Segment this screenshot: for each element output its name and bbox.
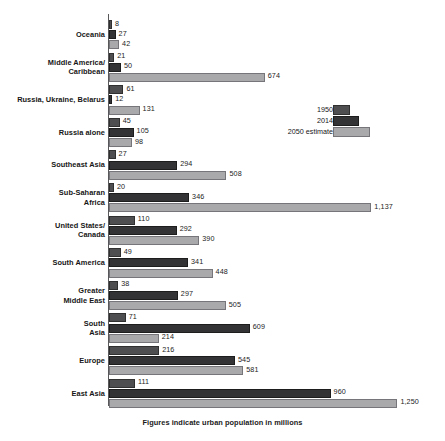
bar-value-label: 71 — [129, 312, 137, 322]
bar-value-label: 294 — [180, 159, 192, 169]
bar-1950 — [109, 118, 119, 127]
legend-label-1950: 1950 — [317, 104, 333, 115]
bar-value-label: 8 — [115, 19, 119, 29]
bar-value-label: 448 — [216, 267, 228, 277]
category-label-line: Southeast Asia — [3, 160, 105, 169]
bar-value-label: 21 — [117, 51, 125, 61]
bar-value-label: 297 — [181, 289, 193, 299]
bar-value-label: 27 — [119, 149, 127, 159]
bar-1950 — [109, 216, 134, 225]
category-label: Russia alone — [3, 128, 105, 137]
plot-area: 8274221506746112131451059827294508203461… — [108, 14, 438, 406]
bar-2014 — [109, 226, 176, 235]
bar-value-label: 390 — [202, 234, 214, 244]
bar-1950 — [109, 346, 159, 355]
bar-2050-estimate — [109, 236, 199, 245]
bar-2014 — [109, 356, 235, 365]
chart-footnote: Figures indicate urban population in mil… — [0, 418, 445, 427]
bar-value-label: 545 — [238, 355, 250, 365]
bar-2014 — [109, 291, 177, 300]
chart-legend: 1950 2014 2050 estimate — [290, 104, 395, 146]
category-label: SouthAsia — [3, 319, 105, 338]
category-label: Europe — [3, 356, 105, 365]
bar-value-label: 609 — [253, 322, 265, 332]
bar-value-label: 1,137 — [374, 202, 393, 212]
category-label-line: South America — [3, 258, 105, 267]
bar-1950 — [109, 379, 135, 388]
category-label: Russia, Ukraine, Belarus — [3, 95, 105, 104]
bar-value-label: 50 — [124, 61, 132, 71]
legend-label-2014: 2014 — [317, 115, 333, 126]
category-label-line: Canada — [3, 230, 105, 239]
bar-value-label: 61 — [126, 84, 134, 94]
category-label: Oceania — [3, 30, 105, 39]
bar-2050-estimate — [109, 73, 264, 82]
bar-2050-estimate — [109, 301, 225, 310]
category-label-line: Middle America/ — [3, 58, 105, 67]
bar-value-label: 341 — [191, 257, 203, 267]
bar-2014 — [109, 193, 189, 202]
legend-item-2050: 2050 estimate — [290, 126, 395, 137]
category-label-line: East Asia — [3, 389, 105, 398]
bar-value-label: 214 — [162, 332, 174, 342]
bar-2050-estimate — [109, 399, 397, 408]
category-label-line: Africa — [3, 198, 105, 207]
bar-2050-estimate — [109, 366, 243, 375]
category-label-line: United States/ — [3, 221, 105, 230]
bar-value-label: 131 — [143, 104, 155, 114]
legend-swatch-2050 — [333, 127, 370, 137]
bar-1950 — [109, 85, 123, 94]
bar-value-label: 674 — [268, 71, 280, 81]
category-label: Sub-SaharanAfrica — [3, 188, 105, 207]
bar-value-label: 346 — [192, 192, 204, 202]
bar-2014 — [109, 389, 330, 398]
bar-value-label: 38 — [121, 279, 129, 289]
bar-2050-estimate — [109, 334, 158, 343]
urban-population-bar-chart: OceaniaMiddle America/CaribbeanRussia, U… — [0, 0, 445, 441]
category-label-line: South — [3, 319, 105, 328]
bar-1950 — [109, 183, 114, 192]
category-label-line: Europe — [3, 356, 105, 365]
bar-2014 — [109, 63, 121, 72]
legend-item-2014: 2014 — [290, 115, 395, 126]
bar-value-label: 42 — [122, 39, 130, 49]
bar-2050-estimate — [109, 269, 212, 278]
bar-1950 — [109, 281, 118, 290]
bar-value-label: 49 — [124, 247, 132, 257]
category-label: Middle America/Caribbean — [3, 58, 105, 77]
category-label: East Asia — [3, 389, 105, 398]
bar-2014 — [109, 95, 112, 104]
bar-value-label: 216 — [162, 345, 174, 355]
category-label: Southeast Asia — [3, 160, 105, 169]
category-label: GreaterMiddle East — [3, 286, 105, 305]
bar-2014 — [109, 30, 115, 39]
bar-value-label: 27 — [119, 29, 127, 39]
legend-item-1950: 1950 — [290, 104, 395, 115]
bar-2014 — [109, 324, 249, 333]
bar-value-label: 581 — [246, 365, 258, 375]
bar-1950 — [109, 20, 112, 29]
bar-2014 — [109, 258, 188, 267]
bar-value-label: 508 — [229, 169, 241, 179]
bar-value-label: 105 — [137, 126, 149, 136]
category-label-line: Russia, Ukraine, Belarus — [3, 95, 105, 104]
category-label: South America — [3, 258, 105, 267]
bar-value-label: 110 — [138, 214, 150, 224]
category-label-line: Greater — [3, 286, 105, 295]
bar-value-label: 505 — [229, 300, 241, 310]
bar-1950 — [109, 150, 115, 159]
legend-label-2050: 2050 estimate — [288, 126, 333, 137]
category-label-line: Middle East — [3, 296, 105, 305]
category-label-line: Russia alone — [3, 128, 105, 137]
bar-2050-estimate — [109, 106, 139, 115]
bar-2050-estimate — [109, 138, 132, 147]
bar-2050-estimate — [109, 40, 119, 49]
bar-2014 — [109, 128, 133, 137]
bar-value-label: 1,250 — [400, 397, 419, 407]
bar-value-label: 111 — [138, 377, 149, 387]
bar-2014 — [109, 161, 177, 170]
bar-value-label: 45 — [123, 116, 131, 126]
bar-value-label: 960 — [334, 387, 346, 397]
legend-swatch-2014 — [333, 116, 359, 126]
bar-value-label: 292 — [180, 224, 192, 234]
